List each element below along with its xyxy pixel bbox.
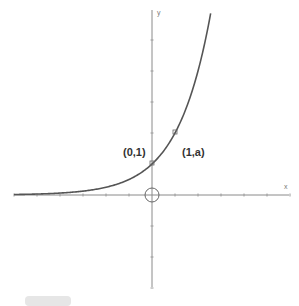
bottom-button[interactable] [25, 296, 71, 306]
y-axis-label: y [157, 9, 161, 16]
point-1-a-label: (1,a) [182, 146, 205, 158]
point-0-1-label: (0,1) [123, 146, 146, 158]
exponential-curve [14, 13, 211, 194]
x-axis-label: x [284, 183, 288, 190]
